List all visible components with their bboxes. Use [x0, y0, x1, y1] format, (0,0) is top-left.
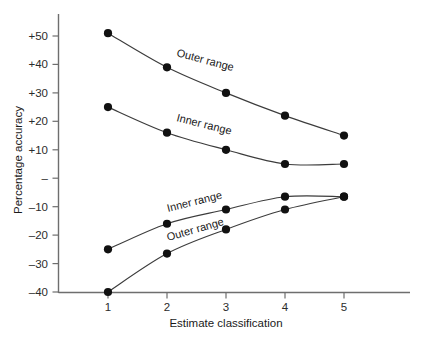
y-axis-ticks: [53, 36, 59, 292]
series-label-outer-range-lower: Outer range: [165, 215, 225, 243]
chart-canvas: +50 +40 +30 +20 +10 – –10 –20 –30 –40 1 …: [0, 0, 425, 339]
data-point: [222, 89, 230, 97]
chart-figure: +50 +40 +30 +20 +10 – –10 –20 –30 –40 1 …: [0, 0, 425, 339]
y-tick-label: +40: [28, 58, 48, 70]
y-tick-label: –40: [29, 286, 48, 298]
y-tick-label: +20: [28, 115, 48, 127]
data-point: [281, 193, 289, 201]
data-point: [281, 112, 289, 120]
series-label-outer-range-upper: Outer range: [175, 46, 235, 73]
series-label-inner-range-upper: Inner range: [176, 111, 233, 136]
y-axis-title: Percentage accuracy: [12, 106, 24, 214]
data-point: [340, 131, 348, 139]
y-tick-label: +50: [28, 30, 48, 42]
x-tick-label: 1: [105, 301, 111, 313]
y-axis-tick-labels: +50 +40 +30 +20 +10 – –10 –20 –30 –40: [28, 30, 48, 298]
data-point: [104, 29, 112, 37]
data-point: [340, 193, 348, 201]
data-point: [281, 160, 289, 168]
y-tick-label: –: [42, 172, 49, 184]
data-point: [222, 146, 230, 154]
series-curve-upper-inner-range: [108, 107, 344, 165]
data-point: [281, 205, 289, 213]
y-tick-label: +30: [28, 87, 48, 99]
data-point: [222, 205, 230, 213]
data-point: [163, 129, 171, 137]
x-tick-label: 3: [223, 301, 229, 313]
data-point: [104, 288, 112, 296]
y-tick-label: –20: [29, 229, 48, 241]
series-label-inner-range-lower: Inner range: [166, 189, 223, 214]
data-point: [163, 63, 171, 71]
data-point: [163, 220, 171, 228]
data-point: [340, 160, 348, 168]
y-tick-label: –30: [29, 258, 48, 270]
data-point: [104, 103, 112, 111]
y-tick-label: +10: [28, 144, 48, 156]
series-curve-upper-outer-range: [108, 33, 344, 135]
x-axis-ticks: [108, 293, 344, 299]
x-tick-label: 2: [164, 301, 170, 313]
data-point: [163, 250, 171, 258]
page-caption-remnant: [0, 319, 425, 339]
series-annotation-layer: Outer rangeInner rangeInner rangeOuter r…: [165, 46, 235, 243]
x-axis-tick-labels: 1 2 3 4 5: [105, 301, 347, 313]
y-tick-label: –10: [29, 201, 48, 213]
x-tick-label: 5: [341, 301, 347, 313]
data-point: [104, 245, 112, 253]
x-tick-label: 4: [282, 301, 289, 313]
